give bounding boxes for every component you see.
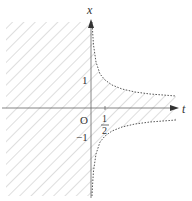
x-axis-label: x xyxy=(86,3,93,17)
origin-label: O xyxy=(80,114,88,126)
diagram-canvas: x t O 1 −1 1 2 xyxy=(0,0,192,201)
shaded-region xyxy=(0,0,192,201)
t-axis-label: t xyxy=(182,102,186,116)
tick-label-half-num: 1 xyxy=(102,113,107,124)
tick-label-1: 1 xyxy=(82,74,88,86)
tick-label-half-den: 2 xyxy=(102,125,107,136)
tick-label-neg1: −1 xyxy=(76,131,88,143)
